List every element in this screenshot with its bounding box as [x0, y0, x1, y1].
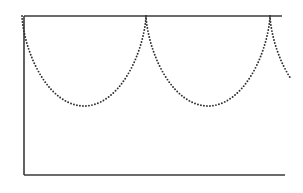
curve-dot [122, 80, 124, 82]
curve-dot [245, 83, 247, 85]
curve-dot [156, 59, 158, 61]
curve-dot [186, 98, 188, 100]
curve-dot [273, 39, 275, 41]
curve-dot [102, 99, 104, 101]
curve-dot [176, 91, 178, 93]
curve-dot [283, 65, 285, 67]
curve-dot [257, 61, 259, 63]
curve-dot [59, 97, 61, 99]
curve-dot [248, 78, 250, 80]
curve-dot [119, 85, 121, 87]
curve-dot [197, 104, 199, 106]
curve-dot [142, 35, 144, 37]
curve-dot [181, 95, 183, 97]
curve-dot [191, 101, 193, 103]
curve-dot [108, 96, 110, 98]
curve-dot [188, 100, 190, 102]
curve-dot [82, 105, 84, 107]
curve-dot [203, 105, 205, 107]
curve-dot [209, 105, 211, 107]
curve-dot [269, 15, 271, 17]
curve-dot [157, 62, 159, 64]
curve-dot [132, 64, 134, 66]
curve-dot [50, 88, 52, 90]
curve-dot [97, 102, 99, 104]
curve-dot [271, 30, 273, 32]
curve-dot [28, 48, 30, 50]
curve-dot [215, 104, 217, 106]
curve-dot [159, 65, 161, 67]
curve-dot [266, 35, 268, 37]
curve-dot [146, 27, 148, 29]
curve-dot [88, 105, 90, 107]
curve-dot [155, 57, 157, 59]
curve-dot [218, 103, 220, 105]
curve-dot [105, 98, 107, 100]
curve-dot [24, 36, 26, 38]
curve-dot [25, 39, 27, 41]
curve-dot [136, 56, 138, 58]
curve-dot [194, 103, 196, 105]
curve-dot [163, 73, 165, 75]
curve-dot [85, 105, 87, 107]
curve-dot [270, 21, 272, 23]
curve-dot [21, 18, 23, 20]
curve-dot [41, 76, 43, 78]
curve-dot [27, 45, 29, 47]
curve-dot [243, 85, 245, 87]
curve-dot [141, 41, 143, 43]
curve-dot [110, 94, 112, 96]
curve-dot [167, 79, 169, 81]
curve-dot [153, 51, 155, 53]
curve-dot [152, 48, 154, 50]
cycloid-figure [0, 0, 303, 193]
curve-dot [22, 21, 24, 23]
curve-dot [145, 15, 147, 17]
curve-dot [117, 87, 119, 89]
curve-dot [124, 78, 126, 80]
curve-dot [148, 36, 150, 38]
curve-dot [232, 96, 234, 98]
curve-dot [36, 68, 38, 70]
curve-dot [212, 105, 214, 107]
curve-dot [146, 24, 148, 26]
curve-dot [280, 59, 282, 61]
curve-dot [29, 51, 31, 53]
curve-dot [277, 51, 279, 53]
curve-dot [250, 75, 252, 77]
curve-dot [272, 33, 274, 35]
curve-dot [23, 30, 25, 32]
curve-dot [91, 104, 93, 106]
curve-dot [43, 79, 45, 81]
curve-dot [286, 71, 288, 73]
curve-dot [264, 44, 266, 46]
curve-dot [256, 64, 258, 66]
curve-dot [267, 29, 269, 31]
curve-dot [94, 103, 96, 105]
curve-dot [241, 87, 243, 89]
curve-dot [150, 42, 152, 44]
curve-dot [262, 50, 264, 52]
curve-dot [76, 104, 78, 106]
curve-dot [274, 42, 276, 44]
curve-dot [275, 45, 277, 47]
curve-dot [149, 39, 151, 41]
curve-dot [174, 88, 176, 90]
curve-dot [38, 71, 40, 73]
curve-dot [258, 58, 260, 60]
curve-dot [131, 67, 133, 69]
curve-dot [165, 76, 167, 78]
curve-dot [64, 100, 66, 102]
curve-dot [79, 105, 81, 107]
curve-dot [261, 53, 263, 55]
curve-dot [268, 26, 270, 28]
curve-dot [73, 104, 75, 106]
curve-dot [48, 86, 50, 88]
curve-dot [141, 38, 143, 40]
curve-dot [267, 32, 269, 34]
curve-dot [44, 81, 46, 83]
curve-dot [148, 33, 150, 35]
curve-dot [263, 47, 265, 49]
curve-dot [255, 67, 257, 69]
curve-dot [126, 75, 128, 77]
